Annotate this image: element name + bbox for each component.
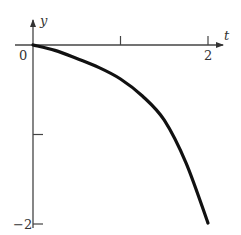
y-tick-label: −2 — [13, 217, 32, 232]
x-ticks: 2 — [121, 36, 213, 63]
chart: 2 −2 y t 0 — [0, 0, 241, 235]
y-axis-label: y — [39, 13, 48, 28]
curve-line — [33, 45, 208, 223]
x-axis-label: t — [224, 28, 230, 43]
axes: 2 −2 — [13, 20, 223, 232]
x-tick-label: 2 — [204, 48, 212, 63]
origin-label: 0 — [19, 48, 27, 63]
y-ticks: −2 — [13, 135, 43, 233]
